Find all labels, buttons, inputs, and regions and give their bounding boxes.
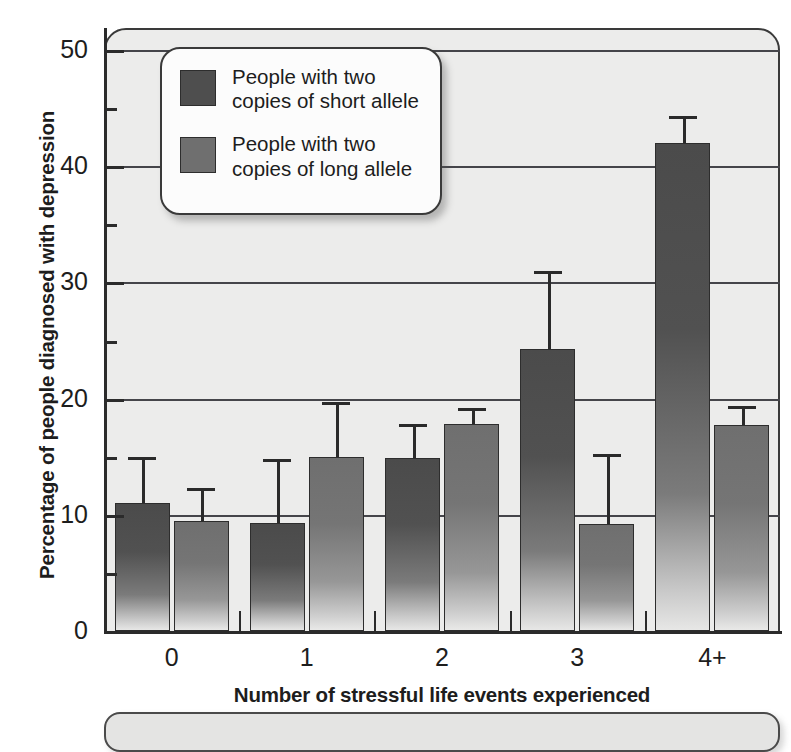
error-bar-cap-short-cat-3 xyxy=(534,271,562,274)
error-bar-cap-short-cat-0 xyxy=(128,457,156,460)
error-bar-stem-short-cat-3 xyxy=(548,271,551,349)
y-tick-label-0: 0 xyxy=(28,618,88,643)
bar-long-allele-cat-1 xyxy=(309,457,364,631)
y-tick-major-20 xyxy=(104,399,124,402)
x-tick-2 xyxy=(374,611,376,631)
error-bar-cap-long-cat-1 xyxy=(322,402,350,405)
y-axis-spine xyxy=(104,28,107,634)
error-bar-cap-short-cat-1 xyxy=(263,459,291,462)
error-bar-stem-short-cat-0 xyxy=(142,457,145,503)
bar-long-allele-cat-2 xyxy=(444,424,499,631)
legend-item-short-allele: People with two copies of short allele xyxy=(180,65,430,113)
error-bar-stem-long-cat-3 xyxy=(607,454,610,524)
caption-panel xyxy=(104,712,780,752)
bar-short-allele-cat-1 xyxy=(250,523,305,631)
x-tick-label-1: 1 xyxy=(262,645,352,670)
x-tick-label-4plus: 4+ xyxy=(667,645,757,670)
x-tick-label-0: 0 xyxy=(127,645,217,670)
bar-short-allele-cat-0 xyxy=(115,503,170,631)
x-tick-label-2: 2 xyxy=(397,645,487,670)
y-tick-label-30: 30 xyxy=(28,269,88,294)
legend-item-long-allele: People with two copies of long allele xyxy=(180,132,430,180)
x-tick-1 xyxy=(239,611,241,631)
y-tick-major-30 xyxy=(104,282,124,285)
x-axis-title: Number of stressful life events experien… xyxy=(104,683,780,707)
y-tick-major-40 xyxy=(104,166,124,169)
y-tick-major-50 xyxy=(104,50,124,53)
y-axis-title: Percentage of people diagnosed with depr… xyxy=(35,40,59,650)
error-bar-stem-short-cat-2 xyxy=(413,424,416,458)
error-bar-cap-short-cat-2 xyxy=(399,424,427,427)
y-tick-minor-15 xyxy=(104,457,117,460)
error-bar-stem-long-cat-0 xyxy=(201,488,204,521)
y-tick-minor-35 xyxy=(104,224,117,227)
error-bar-cap-long-cat-3 xyxy=(593,454,621,457)
y-tick-minor-5 xyxy=(104,573,117,576)
legend-swatch-short-allele xyxy=(180,70,216,106)
y-tick-minor-25 xyxy=(104,341,117,344)
chart-legend: People with two copies of short allele P… xyxy=(160,47,442,215)
y-tick-major-0 xyxy=(104,631,124,634)
bar-short-allele-cat-4plus xyxy=(655,143,710,631)
bar-short-allele-cat-2 xyxy=(385,458,440,631)
legend-swatch-long-allele xyxy=(180,137,216,173)
x-tick-label-3: 3 xyxy=(532,645,622,670)
legend-label-short-allele: People with two copies of short allele xyxy=(232,65,419,113)
error-bar-cap-long-cat-0 xyxy=(187,488,215,491)
y-tick-major-10 xyxy=(104,515,124,518)
error-bar-cap-long-cat-2 xyxy=(458,408,486,411)
bar-short-allele-cat-3 xyxy=(520,349,575,631)
error-bar-cap-short-cat-4plus xyxy=(669,116,697,119)
y-tick-minor-45 xyxy=(104,108,117,111)
y-tick-label-50: 50 xyxy=(28,37,88,62)
error-bar-stem-long-cat-1 xyxy=(336,402,339,457)
y-tick-label-10: 10 xyxy=(28,502,88,527)
bar-long-allele-cat-0 xyxy=(174,521,229,631)
error-bar-stem-short-cat-4plus xyxy=(683,116,686,143)
y-tick-label-40: 40 xyxy=(28,153,88,178)
error-bar-stem-short-cat-1 xyxy=(277,459,280,523)
y-tick-label-20: 20 xyxy=(28,386,88,411)
x-tick-3 xyxy=(510,611,512,631)
x-axis-baseline xyxy=(104,631,782,634)
error-bar-cap-long-cat-4plus xyxy=(728,406,756,409)
x-tick-4 xyxy=(645,611,647,631)
bar-long-allele-cat-3 xyxy=(579,524,634,631)
legend-label-long-allele: People with two copies of long allele xyxy=(232,132,412,180)
bar-long-allele-cat-4plus xyxy=(714,425,769,631)
